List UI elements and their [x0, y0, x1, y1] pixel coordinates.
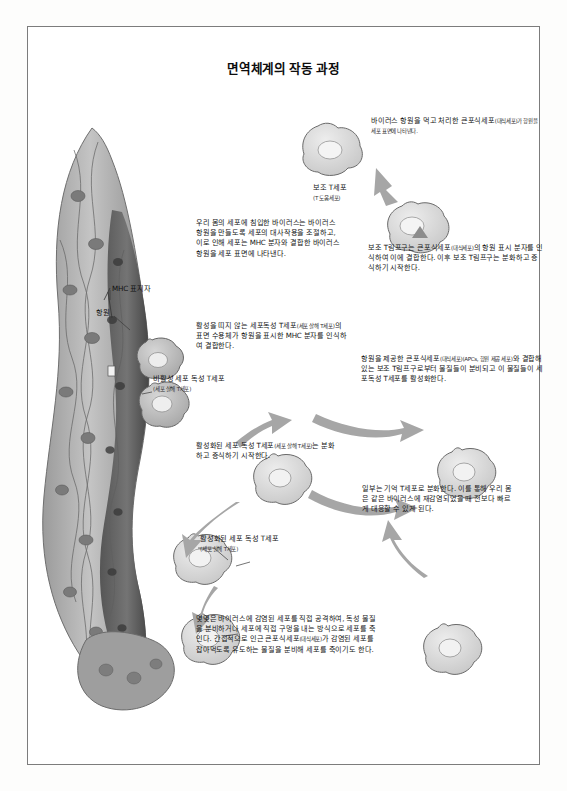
- label-antigen: 항원: [96, 308, 136, 318]
- label-mhc-marker: MHC 표지자: [112, 284, 192, 294]
- label-helper-t-cell: 보조 T세포 (T 도움세포): [313, 183, 383, 203]
- label-inactive-cytotoxic-desc: 활성을 띠지 않는 세포독성 T세포(세포 살해 T세포)의 표면 수용체가 항…: [196, 321, 348, 352]
- label-activated-cytotoxic-2: 활성화된 세포 독성 T세포 (세포 살해 T세포): [200, 534, 340, 554]
- label-infected-cell: 우리 몸의 세포에 침입한 바이러스는 바이러스 항원을 만들도록 세포의 대사…: [196, 218, 344, 259]
- label-apc-activation: 항원을 제공한 큰포식세포(대식세포)(APCs, 항원 제공 세포)와 결합해…: [361, 354, 543, 385]
- page-root: 면역체계의 작동 과정 바이러스 항원을 먹고 처리한 큰포식세포(대식세포)가…: [0, 0, 567, 791]
- label-killing-mechanism: 몇몇은 바이러스에 감염된 세포를 직접 공격하여, 독성 물질을 분비하거나 …: [196, 614, 376, 655]
- label-helper-t-lymphocyte-binding: 보조 T림프구는 큰포식세포(대식세포)의 항원 표시 분자를 인식하여 이에 …: [368, 243, 544, 274]
- label-memory-t-cell: 일부는 기억 T세포로 분화한다. 이를 통해 우리 몸은 같은 바이러스에 재…: [362, 484, 514, 515]
- label-activated-cytotoxic-1: 활성화된 세포 독성 T세포(세포 살해 T세포)는 분화하고 증식하기 시작한…: [196, 441, 336, 461]
- page-title: 면역체계의 작동 과정: [0, 58, 567, 77]
- label-inactive-cytotoxic: 비활성 세포 독성 T세포 (세포 살해 T세포): [153, 374, 231, 394]
- label-macrophage-antigen: 바이러스 항원을 먹고 처리한 큰포식세포(대식세포)가 항원을 세포 표면에 …: [371, 116, 539, 136]
